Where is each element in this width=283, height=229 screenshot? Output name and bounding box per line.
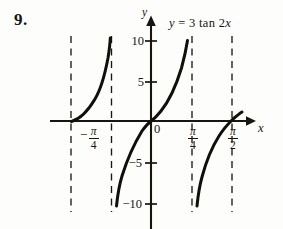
equation-variable: x: [225, 16, 231, 30]
tangent-graph-figure: y x y = 3 tan 2x 0 10 5 −5 −10 − π 4 π: [0, 0, 283, 229]
y-tick-label-neg5: −5: [112, 157, 142, 170]
equation-label: y = 3 tan 2x: [169, 17, 231, 30]
fraction: π 4: [188, 126, 198, 151]
equation-equals: =: [178, 16, 185, 30]
y-tick-label-10: 10: [114, 35, 144, 48]
y-tick-label-neg10: −10: [112, 198, 142, 211]
x-tick-label-neg-pi-over-4: − π 4: [80, 126, 99, 151]
y-tick-label-5: 5: [114, 76, 144, 89]
fraction-numerator: π: [89, 126, 99, 138]
origin-label: 0: [154, 123, 160, 136]
curve-branch-left: [72, 38, 111, 122]
x-axis-label: x: [258, 122, 264, 135]
equation-rhs: 3 tan 2x: [189, 16, 231, 30]
fraction-numerator: π: [188, 126, 198, 138]
y-axis-label: y: [142, 7, 147, 19]
y-axis-arrowhead: [146, 16, 156, 27]
x-tick-label-pi-over-2: π 2: [228, 126, 238, 151]
figure-page: 9. y: [0, 0, 283, 229]
fraction: π 4: [89, 126, 99, 151]
fraction-denominator: 4: [89, 139, 99, 151]
fraction-denominator: 4: [188, 139, 198, 151]
minus-sign: −: [80, 128, 87, 150]
fraction-numerator: π: [228, 126, 238, 138]
x-axis-arrowhead: [246, 116, 256, 126]
fraction: π 2: [228, 126, 238, 151]
x-tick-label-pi-over-4: π 4: [188, 126, 198, 151]
fraction-denominator: 2: [228, 139, 238, 151]
